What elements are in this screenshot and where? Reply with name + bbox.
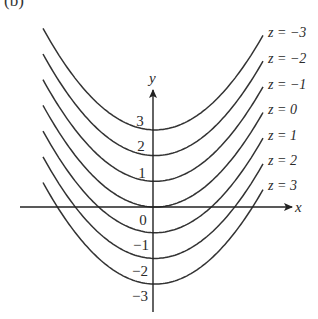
y-tick-label: −2 [132,263,148,279]
y-tick-label: 1 [138,165,146,181]
level-curve-label: z = 1 [267,128,297,143]
y-axis-label: y [147,70,156,86]
level-curve-label: z = 0 [267,102,297,117]
level-curve-label: z = 2 [267,153,297,168]
y-tick-label: −3 [132,288,148,304]
contour-plot: x y 3 2 1 0 −1 −2 −3 z = −3 z = −2 z = −… [0,0,318,319]
level-curve-label: z = −3 [267,25,306,40]
level-curve-label: z = 3 [267,178,297,193]
y-tick-label: 0 [139,212,147,228]
y-tick-label: 3 [136,113,144,129]
level-curve-label: z = −1 [267,77,306,92]
x-axis-label: x [294,199,302,215]
y-tick-label: 2 [137,138,145,154]
level-curve-label: z = −2 [267,51,306,66]
y-tick-label: −1 [133,237,149,253]
